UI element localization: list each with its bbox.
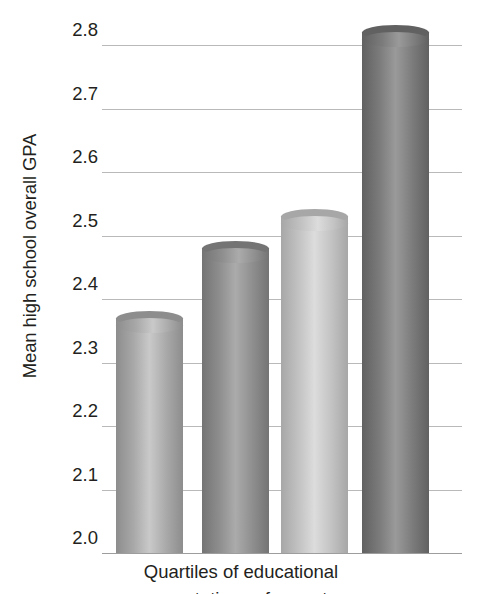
y-axis-tick-label: 2.4 <box>42 275 98 294</box>
bar <box>362 25 429 553</box>
y-axis-tick-label: 2.0 <box>42 529 98 548</box>
x-axis-title-line2: expectations of parents <box>0 585 482 594</box>
y-axis-tick-label: 2.3 <box>42 339 98 358</box>
y-axis-tick-label: 2.5 <box>42 212 98 231</box>
bar-body <box>116 318 183 553</box>
plot-area <box>102 0 464 593</box>
bar-top-ellipse <box>116 318 183 333</box>
bar-body <box>202 248 269 553</box>
x-axis-title: Quartiles of educational expectations of… <box>0 558 482 594</box>
bar-body <box>281 216 348 553</box>
bar-body <box>362 32 429 553</box>
y-axis-tick-labels: 2.82.72.62.52.42.32.22.12.0 <box>30 0 98 593</box>
x-axis-title-line1: Quartiles of educational <box>144 561 338 582</box>
y-axis-tick-label: 2.1 <box>42 466 98 485</box>
bar <box>116 311 183 553</box>
y-axis-tick-label: 2.7 <box>42 85 98 104</box>
bar <box>281 209 348 553</box>
y-axis-tick-label: 2.8 <box>42 21 98 40</box>
x-axis-line <box>102 553 462 554</box>
y-axis-tick-label: 2.2 <box>42 402 98 421</box>
y-axis-tick-label: 2.6 <box>42 148 98 167</box>
bar <box>202 241 269 553</box>
